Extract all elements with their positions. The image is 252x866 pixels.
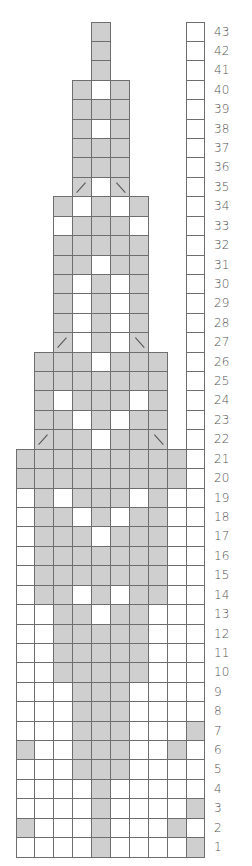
stitch-cell-gray xyxy=(53,255,73,275)
stitch-cell-white xyxy=(53,759,73,779)
row-number-label: 12 xyxy=(214,625,244,644)
stitch-cell-white xyxy=(167,507,187,527)
stitch-cell-gray xyxy=(53,235,73,255)
stitch-cell-white xyxy=(167,779,187,799)
stitch-cell-white xyxy=(53,701,73,721)
stitch-cell-gray xyxy=(129,624,149,644)
stitch-cell-gray xyxy=(53,643,73,663)
stitch-cell-white xyxy=(186,507,206,527)
right-slant-decrease-icon xyxy=(129,332,149,352)
stitch-cell-white xyxy=(186,468,206,488)
stitch-cell-gray xyxy=(53,546,73,566)
stitch-cell-gray xyxy=(129,274,149,294)
stitch-cell-gray xyxy=(34,488,54,508)
stitch-cell-gray xyxy=(34,546,54,566)
stitch-cell-white xyxy=(148,721,168,741)
stitch-cell-white xyxy=(167,488,187,508)
stitch-cell-gray xyxy=(110,390,130,410)
stitch-cell-white xyxy=(186,410,206,430)
stitch-cell-gray xyxy=(53,429,73,449)
stitch-cell-gray xyxy=(167,818,187,838)
row-number-label: 7 xyxy=(214,722,244,741)
stitch-cell-white xyxy=(186,779,206,799)
stitch-cell-white xyxy=(186,565,206,585)
stitch-cell-gray xyxy=(72,138,92,158)
stitch-cell-gray xyxy=(110,99,130,119)
row-number-label: 21 xyxy=(214,450,244,469)
stitch-cell-gray xyxy=(72,99,92,119)
stitch-cell-gray xyxy=(53,565,73,585)
row-number-label: 15 xyxy=(214,566,244,585)
row-number-label: 3 xyxy=(214,799,244,818)
stitch-cell-gray xyxy=(72,488,92,508)
row-number-label: 36 xyxy=(214,158,244,177)
stitch-cell-white xyxy=(34,662,54,682)
stitch-cell-white xyxy=(148,837,168,857)
row-number-label: 24 xyxy=(214,391,244,410)
stitch-cell-white xyxy=(110,818,130,838)
stitch-cell-gray xyxy=(72,255,92,275)
stitch-cell-white xyxy=(53,798,73,818)
stitch-cell-gray xyxy=(110,546,130,566)
stitch-cell-gray xyxy=(91,216,111,236)
row-number-label: 10 xyxy=(214,663,244,682)
stitch-cell-gray xyxy=(110,624,130,644)
stitch-cell-white xyxy=(167,546,187,566)
row-number-label: 26 xyxy=(214,353,244,372)
stitch-cell-gray xyxy=(53,449,73,469)
stitch-cell-white xyxy=(72,196,92,216)
row-number-label: 19 xyxy=(214,489,244,508)
stitch-cell-white xyxy=(186,235,206,255)
row-number-label: 17 xyxy=(214,527,244,546)
stitch-cell-white xyxy=(16,546,36,566)
row-number-label: 20 xyxy=(214,469,244,488)
stitch-cell-white xyxy=(186,157,206,177)
stitch-cell-white xyxy=(34,701,54,721)
stitch-cell-white xyxy=(16,837,36,857)
stitch-cell-gray xyxy=(186,798,206,818)
stitch-cell-white xyxy=(72,332,92,352)
row-number-label: 14 xyxy=(214,586,244,605)
stitch-cell-gray xyxy=(91,682,111,702)
stitch-cell-gray xyxy=(148,468,168,488)
stitch-cell-gray xyxy=(16,468,36,488)
stitch-cell-white xyxy=(167,837,187,857)
stitch-cell-gray xyxy=(34,585,54,605)
stitch-cell-gray xyxy=(129,507,149,527)
stitch-cell-gray xyxy=(91,41,111,61)
stitch-cell-white xyxy=(72,293,92,313)
stitch-cell-gray xyxy=(148,565,168,585)
stitch-cell-white xyxy=(129,488,149,508)
stitch-cell-gray xyxy=(129,371,149,391)
stitch-cell-white xyxy=(186,604,206,624)
row-number-label: 25 xyxy=(214,372,244,391)
stitch-cell-white xyxy=(167,662,187,682)
stitch-cell-white xyxy=(91,352,111,372)
stitch-cell-gray xyxy=(129,604,149,624)
stitch-cell-white xyxy=(53,837,73,857)
stitch-cell-white xyxy=(129,682,149,702)
stitch-cell-white xyxy=(129,759,149,779)
stitch-cell-white xyxy=(148,798,168,818)
stitch-cell-gray xyxy=(34,468,54,488)
stitch-cell-white xyxy=(186,255,206,275)
stitch-cell-gray xyxy=(91,701,111,721)
stitch-cell-white xyxy=(186,22,206,42)
stitch-cell-gray xyxy=(110,643,130,663)
stitch-cell-gray xyxy=(129,468,149,488)
row-number-label: 37 xyxy=(214,139,244,158)
stitch-cell-gray xyxy=(34,449,54,469)
stitch-cell-white xyxy=(167,526,187,546)
stitch-cell-gray xyxy=(110,80,130,100)
stitch-cell-white xyxy=(91,119,111,139)
stitch-cell-gray xyxy=(72,352,92,372)
stitch-cell-white xyxy=(129,701,149,721)
stitch-cell-white xyxy=(110,332,130,352)
row-number-label: 23 xyxy=(214,411,244,430)
row-number-label: 42 xyxy=(214,42,244,61)
stitch-cell-gray xyxy=(129,235,149,255)
stitch-cell-white xyxy=(186,701,206,721)
stitch-cell-gray xyxy=(129,352,149,372)
stitch-cell-white xyxy=(148,759,168,779)
row-number-label: 30 xyxy=(214,275,244,294)
